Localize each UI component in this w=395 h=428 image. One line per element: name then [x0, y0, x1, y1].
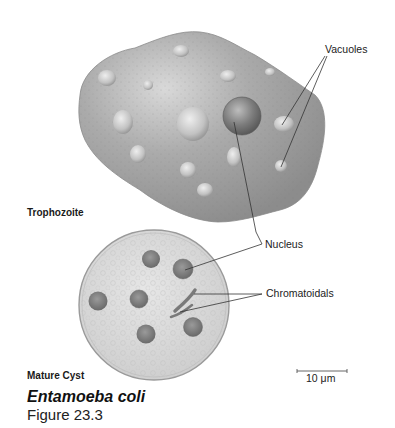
vacuoles-label: Vacuoles	[325, 43, 367, 55]
figure-title: Entamoeba coli	[27, 388, 145, 406]
mature-cyst-label: Mature Cyst	[27, 370, 84, 381]
trophozoite-nucleus	[223, 97, 261, 135]
figure-caption: Figure 23.3	[27, 406, 103, 423]
nucleus-label: Nucleus	[265, 238, 303, 250]
chromatoidals-label: Chromatoidals	[266, 287, 334, 299]
scale-bar-label: 10 μm	[306, 372, 335, 384]
trophozoite	[79, 32, 325, 222]
trophozoite-label: Trophozoite	[27, 207, 84, 218]
mature-cyst	[79, 230, 229, 380]
